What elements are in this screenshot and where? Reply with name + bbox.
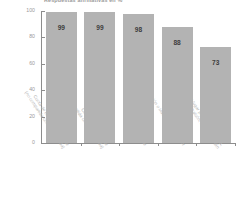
x-axis-tick-mark	[235, 143, 236, 146]
y-axis-tick-label: 80	[29, 33, 35, 39]
bar-chart-figure: Respuestas afirmativas en % 020406080100…	[0, 0, 242, 224]
bar-value-label: 98	[123, 26, 154, 33]
bar-value-label: 88	[162, 39, 193, 46]
x-axis-label: Calefacción o instalaciones de calor	[185, 144, 186, 145]
x-axis-label: Agua caliente	[147, 144, 148, 145]
x-axis-tick-mark	[119, 143, 120, 146]
bar-value-label: 99	[84, 24, 115, 31]
x-axis-label: Cocina independiente(no compartida con o…	[108, 144, 109, 145]
y-axis-tick-label: 60	[29, 60, 35, 66]
bar-value-label: 73	[200, 59, 231, 66]
bar: 88	[162, 27, 193, 143]
x-axis-labels: Cuota de baño independiente(no compartid…	[0, 144, 242, 224]
x-axis-tick-mark	[158, 143, 159, 146]
y-axis-tick-label: 20	[29, 113, 35, 119]
x-axis-tick-mark	[81, 143, 82, 146]
chart-title: Respuestas afirmativas en %	[44, 0, 204, 4]
x-axis-label: Cuota de baño independiente(no compartid…	[69, 144, 70, 145]
x-axis-tick-mark	[196, 143, 197, 146]
x-axis-label: Un lugar para sentarse fuera,por ejemplo…	[224, 144, 225, 145]
y-axis-tick-label: 100	[26, 7, 35, 13]
bar-value-label: 99	[46, 24, 77, 31]
y-axis-ticks: 020406080100	[0, 11, 41, 144]
